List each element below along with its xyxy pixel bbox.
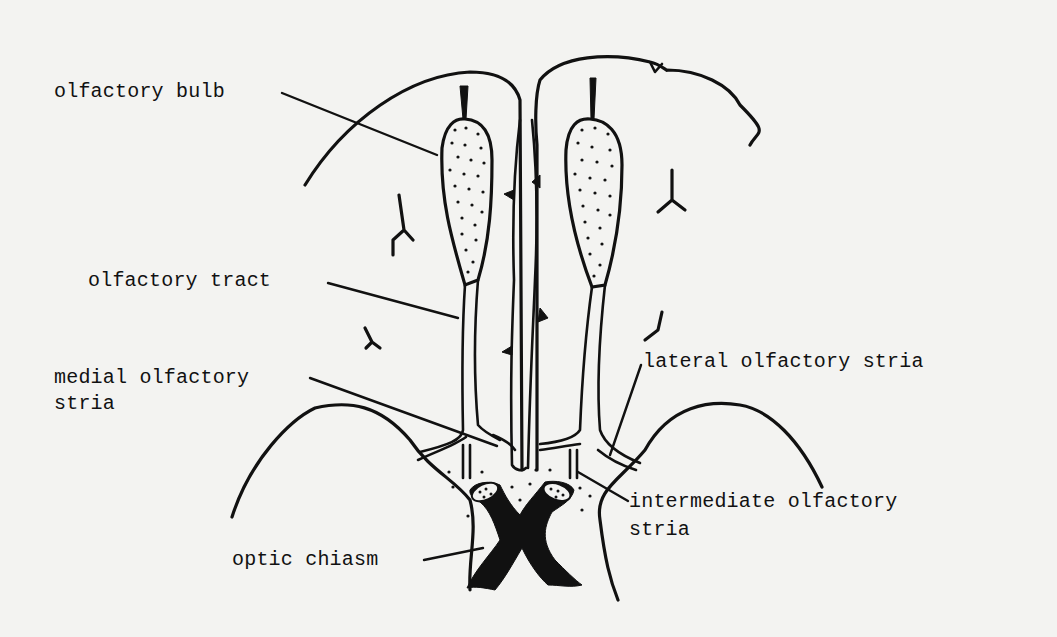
right-nerve-stalk xyxy=(590,78,596,119)
leader-lateral-olfactory-stria xyxy=(610,365,641,455)
right-olfactory-tract-medial-edge xyxy=(540,287,592,444)
leader-medial-olfactory-stria xyxy=(310,378,497,446)
vessel-mark-right-lower xyxy=(645,312,662,340)
right-olfactory-bulb xyxy=(566,119,622,287)
vessel-mark-left-lower xyxy=(365,328,380,348)
leader-olfactory-bulb xyxy=(282,93,437,155)
label-optic-chiasm: optic chiasm xyxy=(232,547,378,573)
vessel-mark-left xyxy=(393,195,413,255)
vessel-mark-right-upper xyxy=(658,170,685,212)
left-olfactory-tract-medial-edge xyxy=(475,280,500,440)
right-frontal-lobe-outline xyxy=(536,57,760,470)
left-olfactory-bulb xyxy=(442,119,492,285)
leader-olfactory-tract xyxy=(328,283,458,318)
label-olfactory-bulb: olfactory bulb xyxy=(54,79,225,105)
left-nerve-stalk xyxy=(460,86,468,119)
label-medial-olfactory-stria-line1: medial olfactory xyxy=(54,365,249,391)
left-lateral-stria xyxy=(418,437,466,460)
label-medial-olfactory-stria-line2: stria xyxy=(54,391,115,417)
label-intermediate-olfactory-stria-line2: stria xyxy=(629,517,690,543)
leader-optic-chiasm xyxy=(424,548,483,560)
label-intermediate-olfactory-stria-line1: intermediate olfactory xyxy=(629,489,897,515)
left-frontal-lobe-outline xyxy=(305,72,522,470)
label-olfactory-tract: olfactory tract xyxy=(88,268,271,294)
anterior-cerebral-vessel-right xyxy=(528,120,536,468)
olfactory-diagram: olfactory bulb olfactory tract medial ol… xyxy=(0,0,1057,637)
label-lateral-olfactory-stria: lateral olfactory stria xyxy=(643,349,924,375)
anterior-cerebral-vessel-left xyxy=(511,120,526,470)
right-olfactory-tract-lateral-edge xyxy=(598,285,640,463)
